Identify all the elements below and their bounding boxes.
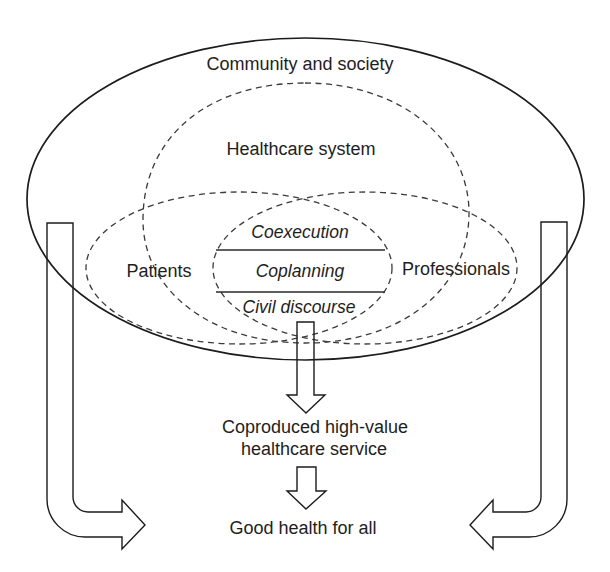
arrow-down-icon xyxy=(287,467,326,509)
healthcare-system-label: Healthcare system xyxy=(226,139,375,159)
result-label-line2: healthcare service xyxy=(241,439,387,459)
arrow-down-icon xyxy=(287,322,325,413)
coexecution-label: Coexecution xyxy=(251,222,348,242)
coplanning-label: Coplanning xyxy=(256,261,345,281)
outcome-label: Good health for all xyxy=(229,518,376,538)
civil-discourse-label: Civil discourse xyxy=(243,297,356,317)
professionals-label: Professionals xyxy=(402,259,510,279)
patients-label: Patients xyxy=(126,261,191,281)
result-label-line1: Coproduced high-value xyxy=(222,417,408,437)
community-society-label: Community and society xyxy=(206,54,393,74)
diagram-svg: Community and society Healthcare system … xyxy=(0,0,610,572)
coproduction-diagram: Community and society Healthcare system … xyxy=(0,0,610,572)
